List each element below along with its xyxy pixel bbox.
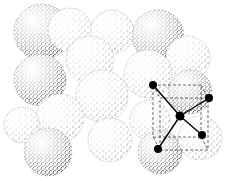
atom-node <box>205 94 213 102</box>
atom-node <box>198 131 206 139</box>
sphere <box>168 70 212 114</box>
atom-node <box>149 81 157 89</box>
atomic-structure-figure <box>0 0 236 181</box>
packed-spheres <box>4 4 222 176</box>
sphere <box>24 128 72 176</box>
sphere <box>88 118 132 162</box>
sphere <box>124 50 172 98</box>
atom-node <box>176 112 185 121</box>
atom-node <box>154 145 162 153</box>
